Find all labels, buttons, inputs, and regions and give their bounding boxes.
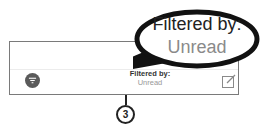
compose-button[interactable] [221,73,237,89]
filter-status-value: Unread [105,78,195,87]
filter-icon [28,76,37,85]
filter-status-label: Filtered by: [105,69,195,78]
callout-label: Filtered by: [133,14,261,35]
callout-leader-line [125,95,127,105]
filter-status[interactable]: Filtered by: Unread [105,69,195,87]
step-badge: 3 [116,105,135,124]
magnified-callout: Filtered by: Unread [133,8,261,70]
compose-icon [221,73,237,89]
callout-value: Unread [133,37,261,58]
filter-button[interactable] [25,73,40,88]
